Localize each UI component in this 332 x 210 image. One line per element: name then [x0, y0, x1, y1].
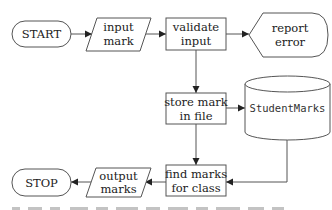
output-marks-io: output marks: [86, 168, 151, 197]
student-marks-label: StudentMarks: [250, 102, 326, 114]
output-marks-line2: marks: [100, 182, 136, 196]
find-marks-line2: for class: [171, 181, 220, 195]
stop-terminator: STOP: [12, 169, 71, 196]
input-mark-line2: mark: [103, 34, 134, 48]
edge-database-to-find: [226, 140, 287, 182]
student-marks-database: StudentMarks: [245, 76, 330, 140]
input-mark-line1: input: [103, 20, 134, 34]
store-mark-process: store mark in file: [164, 93, 229, 124]
flowchart: START input mark validate input report e…: [0, 0, 332, 210]
stop-label: STOP: [25, 176, 58, 190]
store-mark-line1: store mark: [164, 95, 229, 109]
validate-input-line1: validate: [172, 20, 220, 34]
store-mark-line2: in file: [180, 109, 213, 123]
caption-fragment: [12, 207, 284, 210]
start-label: START: [22, 27, 62, 41]
input-mark-io: input mark: [86, 18, 151, 51]
report-error-display: report error: [249, 13, 328, 57]
find-marks-process: find marks for class: [165, 165, 227, 196]
report-error-line2: error: [275, 35, 306, 49]
validate-input-line2: input: [181, 34, 212, 48]
start-terminator: START: [12, 21, 71, 47]
report-error-line1: report: [272, 21, 309, 35]
find-marks-line1: find marks: [165, 167, 227, 181]
validate-input-process: validate input: [166, 18, 226, 50]
output-marks-line1: output: [99, 169, 138, 183]
